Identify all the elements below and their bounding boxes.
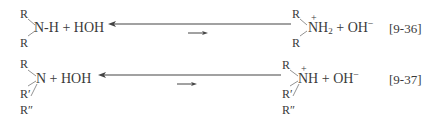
subscript: 2 — [328, 26, 333, 36]
product-substituent-r-prime: R′ — [282, 88, 293, 100]
equation-number: [9-37] — [389, 73, 422, 86]
substituent-r-prime: R′ — [20, 88, 31, 100]
negative-charge: − — [353, 69, 359, 80]
substituent-r-bottom: R — [20, 37, 28, 49]
equation-number: [9-36] — [389, 22, 422, 35]
reverse-arrow-1 — [108, 21, 291, 27]
product-core: NH2 + OH− — [308, 21, 374, 35]
substituent-r-top: R — [20, 58, 28, 70]
reverse-arrow-2 — [98, 72, 281, 78]
forward-arrow-1 — [188, 31, 208, 35]
reactant-core: N + HOH — [36, 72, 91, 86]
product-substituent-r-top: R — [292, 8, 300, 20]
forward-arrow-2 — [177, 82, 197, 86]
ammonium-label: NH — [308, 20, 328, 35]
negative-charge: − — [368, 18, 374, 29]
product-substituent-r-double-prime: R″ — [282, 104, 295, 116]
reactant-core: N-H + HOH — [34, 21, 104, 35]
product-substituent-r-top: R — [282, 59, 290, 71]
hydroxide-label: + OH — [336, 20, 368, 35]
substituent-r-double-prime: R″ — [20, 104, 33, 116]
substituent-r-top: R — [20, 8, 28, 20]
ammonium-label: NH — [298, 71, 318, 86]
product-substituent-r-bottom: R — [292, 37, 300, 49]
product-core: NH + OH− — [298, 72, 359, 86]
hydroxide-label: + OH — [322, 71, 354, 86]
